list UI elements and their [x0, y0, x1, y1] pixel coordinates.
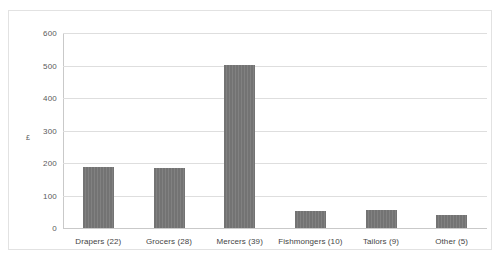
gridline — [63, 66, 487, 67]
gridline — [63, 163, 487, 164]
x-axis-tick-label: Mercers (39) — [216, 237, 263, 246]
y-axis-tick-label: 600 — [43, 29, 57, 38]
bar — [436, 215, 467, 228]
x-axis-tick-label: Tailors (9) — [363, 237, 399, 246]
gridline — [63, 228, 487, 229]
x-axis-tick-label: Grocers (28) — [146, 237, 192, 246]
gridline — [63, 33, 487, 34]
gridline — [63, 131, 487, 132]
y-axis-tick-label: 0 — [52, 224, 57, 233]
bar — [366, 210, 397, 228]
gridline — [63, 98, 487, 99]
bar — [224, 65, 255, 228]
plot-area — [63, 33, 487, 228]
y-axis-tick-label: 100 — [43, 191, 57, 200]
x-axis-tick-labels: Drapers (22)Grocers (28)Mercers (39)Fish… — [63, 237, 487, 251]
x-axis-tick-label: Other (5) — [435, 237, 468, 246]
bar — [295, 211, 326, 228]
bar — [83, 167, 114, 228]
y-axis-tick-label: 500 — [43, 61, 57, 70]
bar — [154, 168, 185, 228]
y-axis-tick-labels: 6005004003002001000 — [9, 11, 57, 249]
y-axis-tick-label: 400 — [43, 94, 57, 103]
y-axis-tick-label: 200 — [43, 159, 57, 168]
x-axis-tick-label: Drapers (22) — [75, 237, 121, 246]
chart-frame: £ 6005004003002001000 Drapers (22)Grocer… — [8, 10, 492, 250]
x-axis-tick-label: Fishmongers (10) — [278, 237, 342, 246]
gridline — [63, 196, 487, 197]
y-axis-tick-label: 300 — [43, 126, 57, 135]
